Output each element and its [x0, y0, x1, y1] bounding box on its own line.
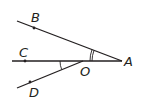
point-D — [29, 81, 32, 84]
label-C: C — [19, 45, 29, 60]
ray-OD — [17, 61, 83, 88]
angle-mark-O — [60, 61, 62, 70]
label-B: B — [31, 10, 40, 25]
label-A: A — [123, 54, 133, 69]
ray-AB — [17, 21, 122, 61]
point-B — [33, 27, 36, 30]
angle-mark-A-inner — [92, 50, 94, 61]
point-C — [24, 60, 27, 63]
label-D: D — [29, 85, 39, 100]
label-O: O — [80, 64, 90, 79]
geometry-diagram: B C D O A — [0, 0, 142, 102]
